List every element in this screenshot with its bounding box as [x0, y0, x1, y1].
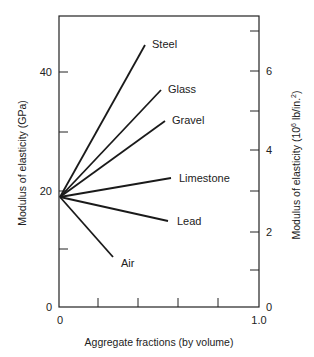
r-tick-6: 6 [266, 65, 272, 77]
line-air [60, 197, 113, 257]
line-lead [60, 197, 168, 221]
label-lead: Lead [177, 215, 201, 227]
line-gravel [60, 121, 165, 197]
y-tick-0: 0 [46, 301, 52, 313]
r-tick-0: 0 [266, 301, 272, 313]
r-tick-2: 2 [266, 226, 272, 238]
label-air: Air [121, 257, 135, 269]
label-limestone: Limestone [179, 172, 230, 184]
label-glass: Glass [168, 83, 197, 95]
x-tick-1: 1.0 [251, 314, 266, 326]
left-ticks [59, 72, 68, 249]
line-limestone [60, 178, 171, 197]
right-ticks [250, 31, 259, 270]
y-axis-title-right: Modulus of elasticity (106 lb/in.2) [290, 90, 302, 239]
y-tick-40: 40 [40, 66, 52, 78]
y-axis-title: Modulus of elasticity (GPa) [16, 100, 28, 225]
x-axis-title: Aggregate fractions (by volume) [85, 336, 234, 348]
y-tick-20: 20 [40, 185, 52, 197]
plot-frame [59, 16, 259, 307]
label-gravel: Gravel [172, 114, 204, 126]
label-steel: Steel [152, 38, 177, 50]
series-lines [60, 45, 171, 257]
chart: Steel Glass Gravel Limestone Lead Air 40… [0, 0, 314, 357]
x-tick-0: 0 [57, 314, 63, 326]
bottom-ticks [98, 298, 218, 307]
r-tick-4: 4 [266, 144, 272, 156]
